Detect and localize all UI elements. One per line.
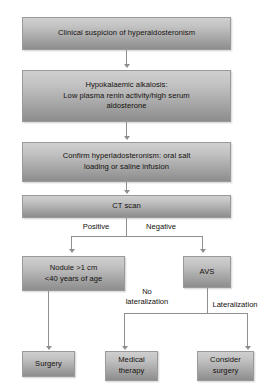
node-hypokalaemic-alkalosis-label: Hypokalaemic alkalosis: Low plasma renin…	[63, 80, 189, 112]
connector-nodule-to-surgery	[48, 291, 49, 347]
node-ct-scan: CT scan	[22, 195, 231, 218]
arrowhead-hypokalaemic-to-confirm	[124, 136, 130, 140]
arrowhead-avs-to-medical	[122, 346, 128, 350]
edge-label-negative: Negative	[131, 222, 191, 232]
node-medical-therapy-label: Medical therapy	[118, 355, 145, 377]
flowchart-diagram: Clinical suspicion of hyperaldosteronism…	[0, 0, 276, 388]
node-consider-surgery: Consider surgery	[197, 351, 254, 381]
connector-ct-stem	[126, 218, 127, 237]
node-ct-scan-label: CT scan	[112, 201, 141, 212]
arrowhead-ct-to-avs	[200, 249, 206, 253]
node-confirm-hyperaldosteronism-label: Confirm hyperladosteronism: oral salt lo…	[63, 151, 191, 173]
node-nodule: Nodule >1 cm <40 years of age	[22, 256, 125, 291]
edge-label-lateralization: Lateralization	[196, 300, 274, 310]
node-consider-surgery-label: Consider surgery	[210, 355, 241, 377]
node-nodule-label: Nodule >1 cm <40 years of age	[45, 263, 103, 285]
node-clinical-suspicion-label: Clinical suspicion of hyperaldosteronism	[58, 28, 195, 39]
connector-avs-to-consider	[247, 313, 248, 347]
node-hypokalaemic-alkalosis: Hypokalaemic alkalosis: Low plasma renin…	[22, 70, 231, 122]
connector-avs-to-medical	[124, 313, 125, 347]
node-medical-therapy: Medical therapy	[105, 351, 158, 381]
arrowhead-suspicion-to-hypokalaemic	[124, 64, 130, 68]
node-clinical-suspicion: Clinical suspicion of hyperaldosteronism	[22, 17, 231, 50]
connector-suspicion-to-hypokalaemic	[126, 50, 127, 65]
connector-hypokalaemic-to-confirm	[126, 122, 127, 137]
edge-label-positive: Positive	[66, 222, 126, 232]
edge-label-no-lateralization: No lateralization	[112, 287, 182, 307]
connector-ct-to-nodule	[71, 236, 72, 250]
connector-avs-split-bar	[124, 313, 248, 314]
arrowhead-ct-to-nodule	[69, 249, 75, 253]
node-surgery-label: Surgery	[35, 359, 62, 370]
arrowhead-avs-to-consider	[245, 346, 251, 350]
connector-ct-to-avs	[202, 236, 203, 250]
arrowhead-confirm-to-ct	[124, 190, 130, 194]
node-confirm-hyperaldosteronism: Confirm hyperladosteronism: oral salt lo…	[22, 142, 231, 182]
node-surgery: Surgery	[22, 351, 75, 377]
node-avs-label: AVS	[200, 267, 215, 278]
node-avs: AVS	[183, 256, 231, 288]
arrowhead-nodule-to-surgery	[46, 346, 52, 350]
connector-ct-split-bar	[71, 236, 202, 237]
